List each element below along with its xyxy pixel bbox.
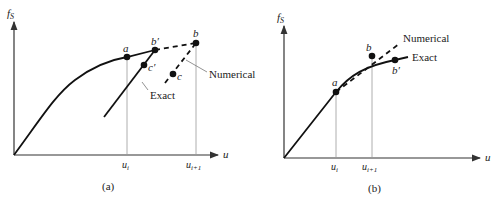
label-b: b [366, 41, 372, 53]
tick-ui: ui [331, 161, 338, 174]
label-numerical: Numerical [403, 32, 449, 44]
point-c [170, 71, 177, 78]
point-b [193, 40, 200, 47]
label-b: b [193, 27, 199, 39]
numerical-dashed-line [155, 43, 196, 50]
panel-a: fS u ui ui+1 a b′ b c′ c Exact Numerical… [7, 7, 255, 193]
label-exact: Exact [412, 51, 437, 63]
label-numerical: Numerical [209, 68, 255, 80]
point-b [369, 53, 376, 60]
label-a: a [332, 76, 338, 88]
tick-ui1: ui+1 [362, 161, 377, 174]
exact-leader-line [142, 82, 148, 90]
point-a [333, 89, 340, 96]
y-axis-label: fS [7, 7, 14, 21]
caption-b: (b) [368, 182, 381, 195]
panel-b: fS u ui ui+1 a b b′ Numerical Exact (b) [277, 11, 491, 195]
exact-curve [14, 50, 155, 155]
caption-a: (a) [102, 180, 115, 193]
label-exact: Exact [150, 89, 175, 101]
label-bprime: b′ [151, 35, 160, 47]
label-a: a [123, 42, 129, 54]
label-c: c [177, 70, 182, 82]
tick-ui1: ui+1 [186, 159, 201, 172]
point-bprime [392, 57, 399, 64]
point-a [124, 54, 131, 61]
diagram-canvas: fS u ui ui+1 a b′ b c′ c Exact Numerical… [0, 0, 499, 209]
point-cprime [141, 62, 148, 69]
label-cprime: c′ [148, 61, 156, 73]
y-axis-label: fS [277, 11, 284, 25]
numerical-leader-line [186, 60, 207, 72]
exact-curve [284, 57, 408, 158]
x-axis-label: u [485, 151, 491, 163]
label-bprime: b′ [392, 64, 401, 76]
point-bprime [152, 47, 159, 54]
tick-ui: ui [122, 159, 129, 172]
x-axis-label: u [223, 148, 229, 160]
